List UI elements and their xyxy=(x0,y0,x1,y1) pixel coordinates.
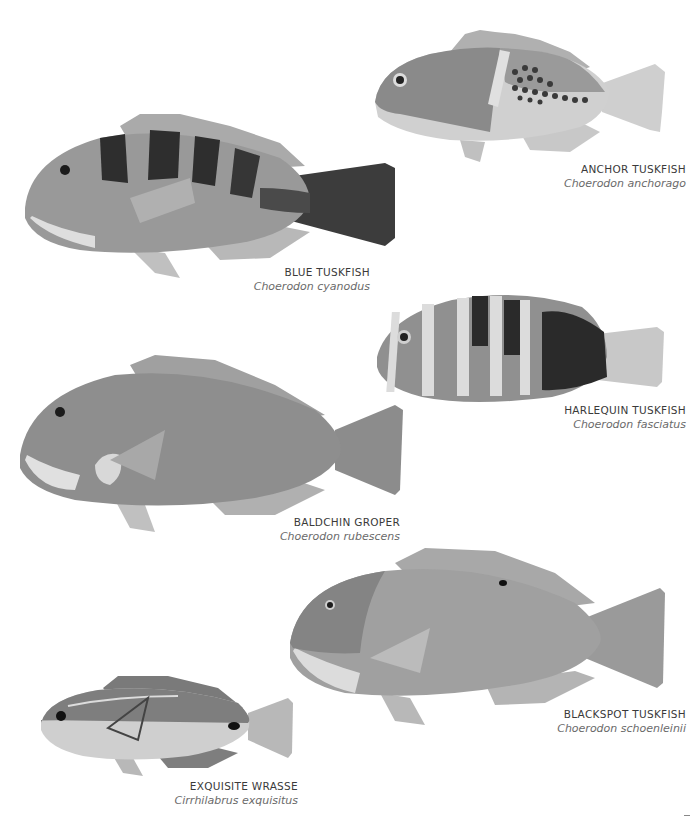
exquisite-wrasse-illustration xyxy=(38,668,298,778)
scientific-name: Cirrhilabrus exquisitus xyxy=(175,794,298,808)
scientific-name: Choerodon rubescens xyxy=(280,530,400,544)
scientific-name: Choerodon cyanodus xyxy=(254,280,370,294)
page-edge-mark xyxy=(684,815,690,816)
species-label-baldchin: BALDCHIN GROPER Choerodon rubescens xyxy=(280,516,400,544)
scientific-name: Choerodon anchorago xyxy=(564,177,686,191)
common-name: ANCHOR TUSKFISH xyxy=(564,163,686,177)
common-name: BLUE TUSKFISH xyxy=(254,266,370,280)
species-label-blue: BLUE TUSKFISH Choerodon cyanodus xyxy=(254,266,370,294)
species-label-harlequin: HARLEQUIN TUSKFISH Choerodon fasciatus xyxy=(564,404,686,432)
baldchin-groper-illustration xyxy=(15,350,405,535)
harlequin-tuskfish-illustration xyxy=(372,282,672,410)
scientific-name: Choerodon schoenleinii xyxy=(557,722,686,736)
blue-tuskfish-illustration xyxy=(20,108,400,283)
common-name: EXQUISITE WRASSE xyxy=(175,780,298,794)
common-name: HARLEQUIN TUSKFISH xyxy=(564,404,686,418)
anchor-tuskfish-illustration xyxy=(370,22,670,164)
species-label-blackspot: BLACKSPOT TUSKFISH Choerodon schoenleini… xyxy=(557,708,686,736)
species-label-exquisite: EXQUISITE WRASSE Cirrhilabrus exquisitus xyxy=(175,780,298,808)
common-name: BLACKSPOT TUSKFISH xyxy=(557,708,686,722)
common-name: BALDCHIN GROPER xyxy=(280,516,400,530)
blackspot-tuskfish-illustration xyxy=(285,543,670,728)
scientific-name: Choerodon fasciatus xyxy=(564,418,686,432)
species-label-anchor: ANCHOR TUSKFISH Choerodon anchorago xyxy=(564,163,686,191)
